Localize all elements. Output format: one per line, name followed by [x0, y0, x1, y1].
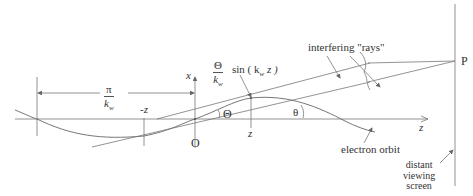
wavefront-lower — [364, 72, 370, 90]
rays-pointer-1 — [327, 56, 340, 78]
x-axis-label: x — [186, 70, 191, 81]
z-axis-label: z — [419, 122, 423, 133]
theta-lower-label: θ — [293, 107, 298, 118]
theta-upper-arc — [218, 110, 220, 118]
ray-to-p-upper — [368, 61, 455, 63]
theta-lower-arc — [301, 105, 304, 118]
amplitude-fraction: Θ kw — [213, 60, 223, 88]
screen-label: distant viewing screen — [403, 160, 435, 192]
point-o-dot — [194, 118, 196, 120]
theta-upper-label: Θ — [223, 108, 232, 120]
amplitude-sin-label: sin ( kw z ) — [232, 64, 278, 78]
electron-orbit-label: electron orbit — [341, 144, 400, 155]
diagram-canvas: π kw -z x O Θ kw sin ( kw z ) Θ z θ z in… — [0, 0, 473, 196]
z-mark-label: z — [248, 128, 252, 139]
point-p-label: P — [461, 55, 468, 67]
origin-label: O — [191, 137, 200, 149]
amplitude-pointer — [240, 75, 251, 97]
minus-z-label: -z — [140, 104, 148, 115]
pi-over-kw-label: π kw — [104, 84, 114, 112]
interfering-rays-label: interfering "rays" — [308, 42, 384, 53]
point-z-dot — [250, 97, 252, 99]
ray-to-p-lower — [368, 61, 455, 82]
screen-pointer — [440, 150, 453, 163]
